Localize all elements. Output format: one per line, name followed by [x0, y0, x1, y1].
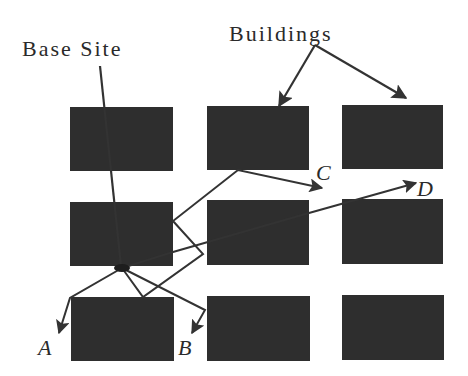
- buildings-grid: [70, 105, 444, 361]
- base-site-label: Base Site: [22, 36, 123, 62]
- building: [207, 200, 309, 265]
- building: [207, 106, 309, 170]
- building: [70, 107, 173, 171]
- destination-label-b: B: [178, 335, 191, 361]
- buildings-pointer-arrows: [279, 45, 406, 106]
- building: [207, 296, 310, 361]
- buildings-label: Buildings: [229, 21, 333, 47]
- buildings-arrow-right: [315, 45, 406, 98]
- destination-label-d: D: [417, 176, 433, 202]
- building: [342, 105, 443, 169]
- destination-label-a: A: [38, 335, 51, 361]
- destination-label-c: C: [316, 160, 331, 186]
- buildings-arrow-left: [279, 45, 315, 106]
- base-site-marker: [114, 264, 130, 272]
- building: [342, 199, 443, 264]
- building: [71, 297, 174, 361]
- building: [342, 295, 444, 360]
